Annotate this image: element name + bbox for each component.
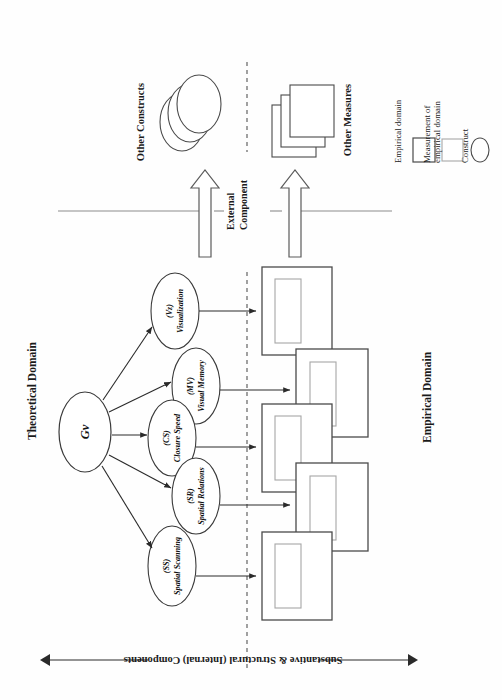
arrow-gv-to-spatial-scanning — [102, 466, 152, 548]
block-arrow-up-icon — [281, 170, 309, 257]
other-constructs-label: Other Constructs — [135, 83, 146, 161]
external-component-label-line2: Component — [238, 179, 249, 230]
theoretical-domain-label: Theoretical Domain — [26, 342, 38, 440]
measure-box-spatial-scanning[interactable] — [262, 532, 332, 620]
other-measures-label: Other Measures — [342, 84, 353, 156]
construct-node-spatial-relations[interactable]: Spatial Relations (SR) — [172, 458, 220, 534]
arrow-gv-to-visualization — [103, 327, 152, 400]
construct-node-visualization[interactable]: Visualization (Vz) — [151, 273, 199, 349]
construct-sublabel-closure-speed: (CS) — [162, 430, 171, 446]
construct-sublabel-visualization: (Vz) — [165, 304, 174, 318]
construct-label-spatial-relations: Spatial Relations — [197, 467, 206, 525]
construct-sublabel-spatial-scanning: (SS) — [162, 558, 171, 573]
internal-components-label: Substantive & Structural (Internal) Comp… — [124, 654, 343, 666]
legend: Empirical domain Measurement of empirica… — [393, 99, 489, 163]
construct-sublabel-spatial-relations: (SR) — [186, 488, 195, 504]
external-block-arrow-constructs — [191, 170, 219, 257]
measurement-box — [275, 279, 301, 343]
construct-node-gv[interactable]: Gv — [59, 392, 111, 472]
construct-ellipse — [177, 75, 221, 133]
measurement-box — [310, 476, 336, 540]
legend-label-measurement-line2: empirical domain — [432, 101, 442, 163]
construct-sublabel-visual-memory: (MV) — [186, 377, 195, 395]
construct-node-spatial-scanning[interactable]: Spatial Scanning (SS) — [148, 526, 196, 606]
nomological-network-diagram: Theoretical Domain Empirical Domain Gv V… — [0, 0, 502, 700]
construct-label-spatial-scanning: Spatial Scanning — [173, 537, 182, 595]
legend-label-construct: Construct — [460, 128, 470, 163]
measurement-box — [275, 544, 301, 608]
construct-label-gv: Gv — [78, 424, 92, 439]
other-constructs-group[interactable]: Other Constructs — [135, 75, 221, 161]
legend-label-empirical-domain: Empirical domain — [393, 99, 403, 163]
other-measures-group[interactable]: Other Measures — [272, 84, 353, 157]
figure-canvas: Theoretical Domain Empirical Domain Gv V… — [0, 0, 502, 700]
external-component-label-line1: External — [225, 193, 236, 230]
legend-label-measurement-line1: Measurement of — [422, 106, 432, 163]
external-block-arrow-measures — [281, 170, 309, 257]
block-arrow-up-icon — [191, 170, 219, 257]
arrowhead-right-icon — [408, 654, 418, 666]
measure-box-visualization[interactable] — [262, 267, 332, 355]
construct-label-closure-speed: Closure Speed — [173, 413, 182, 462]
construct-label-visual-memory: Visual Memory — [197, 360, 206, 412]
construct-label-visualization: Visualization — [176, 288, 185, 333]
internal-components-span: Substantive & Structural (Internal) Comp… — [40, 654, 418, 666]
empirical-domain-label: Empirical Domain — [421, 351, 434, 443]
legend-swatch-construct — [471, 138, 489, 162]
measure-rect — [290, 85, 334, 137]
